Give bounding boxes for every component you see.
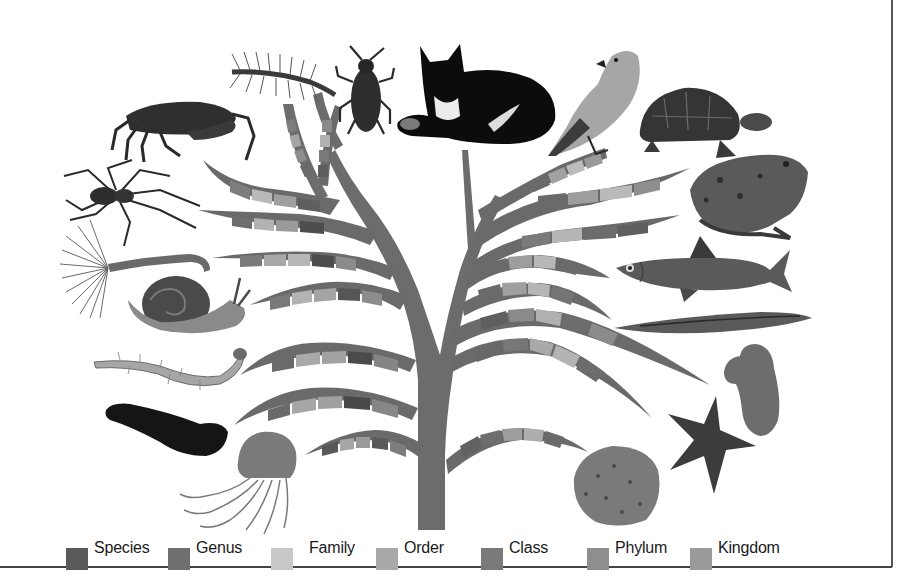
legend-item-species: Species <box>66 538 150 570</box>
tree-trunk <box>313 92 505 530</box>
snail-illustration <box>128 276 250 333</box>
branch-starfish <box>450 338 652 418</box>
beetle-illustration <box>336 46 394 134</box>
branch-jellyfish <box>305 430 426 458</box>
branch-snail <box>250 282 408 310</box>
branch-bristleworm <box>240 343 416 375</box>
genus-swatch <box>168 548 190 570</box>
kingdom-label: Kingdom <box>718 539 780 557</box>
legend-item-kingdom: Kingdom <box>690 538 780 570</box>
family-swatch <box>271 548 293 570</box>
spider-illustration <box>64 160 200 246</box>
class-swatch <box>481 548 503 570</box>
genus-label: Genus <box>196 539 242 557</box>
sponge-illustration <box>724 344 779 436</box>
bristleworm-illustration <box>94 348 247 390</box>
legend-item-order: Order <box>376 538 444 570</box>
branch-seacucumber <box>234 387 418 425</box>
phylum-swatch <box>587 548 609 570</box>
figure-border-right <box>891 0 893 567</box>
legend-item-phylum: Phylum <box>587 538 667 570</box>
coral-illustration <box>574 446 660 526</box>
branch-spider <box>198 210 378 245</box>
species-label: Species <box>94 539 150 557</box>
branch-coral <box>446 428 588 474</box>
seacucumber-illustration <box>106 404 229 456</box>
fish-illustration <box>616 236 792 302</box>
legend-item-class: Class <box>481 538 548 570</box>
order-label: Order <box>404 539 444 557</box>
legend-item-family: Family <box>271 538 355 570</box>
order-swatch <box>376 548 398 570</box>
species-swatch <box>66 548 88 570</box>
phylum-label: Phylum <box>615 539 667 557</box>
crab-illustration <box>112 102 254 162</box>
tortoise-illustration <box>640 88 772 158</box>
bird-illustration <box>548 51 640 156</box>
legend-item-genus: Genus <box>168 538 242 570</box>
taxonomy-figure: Species Genus Family Order Class Phylum … <box>0 0 915 588</box>
cat-illustration <box>397 44 555 144</box>
lancelet-illustration <box>614 312 812 333</box>
taxonomic-tree-illustration <box>0 0 915 588</box>
kingdom-swatch <box>690 548 712 570</box>
class-label: Class <box>509 539 548 557</box>
frog-illustration <box>690 155 808 238</box>
branch-fanworm <box>212 252 396 280</box>
family-label: Family <box>309 539 355 557</box>
